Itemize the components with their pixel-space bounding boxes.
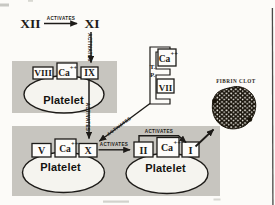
activates-label-top: ACTIVATES xyxy=(47,16,76,21)
scan-speck xyxy=(28,0,33,2)
coagulation-cascade-diagram: XII ACTIVATES XI ACTIVATES VIII Ca ++ IX… xyxy=(0,0,275,205)
factor-x-label: X xyxy=(84,145,92,156)
factor-ii-label: II xyxy=(140,145,148,156)
calcium-tf-label: Ca xyxy=(159,54,171,64)
calcium-3-superscript: ++ xyxy=(174,139,182,146)
calcium-1-superscript: ++ xyxy=(70,64,78,71)
calcium-2-superscript: ++ xyxy=(71,140,79,147)
diagram-canvas: XII ACTIVATES XI ACTIVATES VIII Ca ++ IX… xyxy=(0,0,275,205)
factor-xii-label: XII xyxy=(20,16,40,31)
tissue-factor-t-label: T. xyxy=(150,63,156,70)
activates-label-vertical-1: ACTIVATES xyxy=(87,33,92,62)
tissue-factor-p-label: P. xyxy=(150,71,156,78)
calcium-3-label: Ca xyxy=(161,142,173,153)
factor-i-label: I xyxy=(188,145,192,156)
factor-v-label: V xyxy=(38,145,46,156)
fibrin-clot-edge-fragment xyxy=(248,117,252,121)
platelet-1-label: Platelet xyxy=(43,94,84,106)
page-edge-line xyxy=(272,8,273,205)
calcium-2-label: Ca xyxy=(59,144,71,154)
calcium-tf-superscript: ++ xyxy=(171,50,179,57)
factor-xi-label: XI xyxy=(84,16,99,31)
activates-label-vertical-2: ACTIVATES xyxy=(85,103,90,132)
fibrin-clot-label: FIBRIN CLOT xyxy=(216,78,256,84)
fibrin-clot-edge-fragment xyxy=(212,99,217,104)
fibrin-clot-blob xyxy=(212,87,255,129)
scan-speck xyxy=(214,199,221,201)
factor-viii-label: VIII xyxy=(34,68,52,78)
factor-ix-label: IX xyxy=(84,68,95,78)
calcium-1-label: Ca xyxy=(58,68,70,78)
activates-label-bracket: ACTIVATES xyxy=(145,129,174,134)
platelet-2-label: Platelet xyxy=(40,161,81,173)
scan-speck xyxy=(0,4,9,7)
scan-speck xyxy=(103,201,129,203)
activates-label-horizontal: ACTIVATES xyxy=(100,142,129,147)
factor-vii-label: VII xyxy=(159,83,173,93)
platelet-3-label: Platelet xyxy=(145,162,186,174)
